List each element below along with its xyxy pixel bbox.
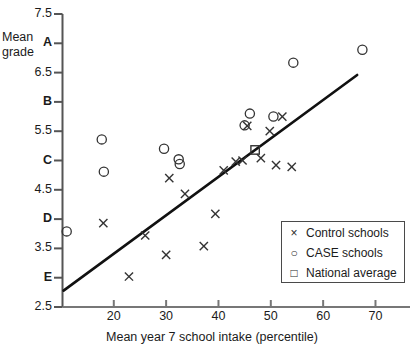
- y-tick-marks: [54, 14, 63, 307]
- legend-label-case-schools: CASE schools: [306, 246, 383, 260]
- y-tick-label-5.5: 5.5: [14, 124, 52, 137]
- data-point-control-school: [141, 231, 149, 239]
- data-point-control-school: [165, 174, 173, 182]
- y-tick-label-E: E: [14, 271, 52, 284]
- x-tick-marks: [114, 300, 376, 307]
- legend-label-control-schools: Control schools: [306, 226, 389, 240]
- data-point-control-school: [266, 127, 274, 135]
- data-point-control-school: [288, 163, 296, 171]
- legend-marker-square-icon: □: [282, 266, 306, 280]
- data-point-control-school: [200, 242, 208, 250]
- data-point-case-school: [269, 112, 278, 121]
- y-tick-label-2.5: 2.5: [14, 300, 52, 313]
- data-point-control-school: [257, 154, 265, 162]
- data-point-case-school: [159, 144, 168, 153]
- data-point-case-school: [97, 135, 106, 144]
- data-point-case-school: [99, 167, 108, 176]
- x-tick-label-50: 50: [251, 310, 291, 323]
- y-tick-label-7.5: 7.5: [14, 7, 52, 20]
- data-point-control-school: [278, 112, 286, 120]
- legend-item: □ National average: [282, 263, 406, 282]
- x-tick-label-30: 30: [146, 310, 186, 323]
- y-tick-label-A: A: [14, 36, 52, 49]
- y-tick-label-B: B: [14, 95, 52, 108]
- data-point-control-school: [162, 251, 170, 259]
- y-tick-label-4.5: 4.5: [14, 183, 52, 196]
- legend-item: ○ CASE schools: [282, 243, 406, 262]
- y-tick-label-3.5: 3.5: [14, 241, 52, 254]
- data-point-control-school: [272, 161, 280, 169]
- y-tick-label-C: C: [14, 154, 52, 167]
- y-tick-label-D: D: [14, 212, 52, 225]
- plot-canvas: [0, 0, 418, 359]
- legend-marker-circle-icon: ○: [282, 246, 306, 260]
- x-axis-title: Mean year 7 school intake (percentile): [62, 330, 362, 344]
- data-point-case-school: [245, 109, 254, 118]
- data-point-control-school: [181, 190, 189, 198]
- scatter-plot-figure: Mean grade 7.5A6.5B5.5C4.5D3.5E2.5 20304…: [0, 0, 418, 359]
- x-tick-label-40: 40: [198, 310, 238, 323]
- x-tick-label-60: 60: [303, 310, 343, 323]
- legend-box: × Control schools ○ CASE schools □ Natio…: [281, 221, 405, 283]
- data-point-control-school: [125, 272, 133, 280]
- x-tick-label-20: 20: [94, 310, 134, 323]
- legend-label-national-average: National average: [306, 266, 397, 280]
- legend-marker-cross-icon: ×: [282, 226, 306, 240]
- data-point-control-school: [211, 210, 219, 218]
- data-point-control-school: [99, 219, 107, 227]
- x-tick-label-70: 70: [355, 310, 395, 323]
- legend-item: × Control schools: [282, 223, 406, 242]
- data-point-case-school: [289, 58, 298, 67]
- y-tick-label-6.5: 6.5: [14, 66, 52, 79]
- data-point-case-school: [358, 45, 367, 54]
